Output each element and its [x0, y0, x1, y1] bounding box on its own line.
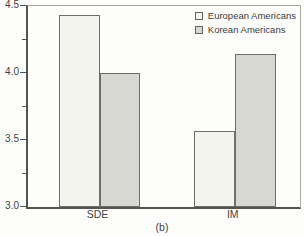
y-axis-minor-tick — [22, 39, 26, 40]
y-axis-label: 4.5 — [0, 0, 19, 10]
y-axis-minor-tick — [22, 106, 26, 107]
legend-item-1: Korean Americans — [195, 24, 296, 35]
y-axis-major-tick — [20, 139, 26, 140]
legend-swatch-icon — [195, 12, 203, 20]
bar-im-series-0 — [194, 131, 235, 207]
bar-chart-figure: European AmericansKorean Americans (b) 4… — [0, 0, 304, 236]
plot-area: European AmericansKorean Americans — [26, 5, 301, 209]
legend: European AmericansKorean Americans — [195, 10, 296, 35]
y-axis-label: 4.0 — [0, 67, 19, 77]
y-axis-major-tick — [20, 72, 26, 73]
y-axis-major-tick — [20, 206, 26, 207]
x-axis-label-im: IM — [227, 209, 239, 220]
figure-caption: (b) — [26, 222, 298, 233]
y-axis-minor-tick — [22, 173, 26, 174]
legend-swatch-icon — [195, 26, 203, 34]
legend-item-0: European Americans — [195, 10, 296, 21]
y-axis-major-tick — [20, 5, 26, 6]
bar-sde-series-0 — [59, 15, 100, 207]
y-axis-label: 3.5 — [0, 134, 19, 144]
legend-label: Korean Americans — [208, 24, 286, 35]
x-axis-label-sde: SDE — [87, 209, 109, 220]
legend-label: European Americans — [208, 10, 296, 21]
y-axis-label: 3.0 — [0, 201, 19, 211]
bar-im-series-1 — [235, 54, 276, 207]
bar-sde-series-1 — [100, 73, 141, 207]
